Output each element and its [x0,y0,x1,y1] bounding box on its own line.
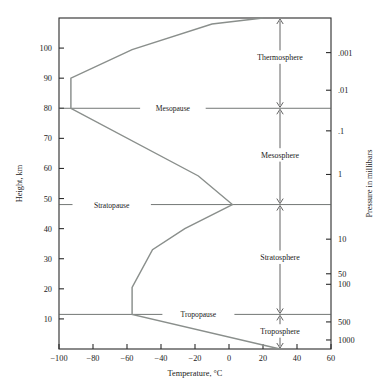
y-tick-label: 10 [44,315,52,324]
x-tick-label: −40 [155,354,168,363]
x-tick-label: −80 [87,354,100,363]
pressure-tick-label: 1000 [338,336,355,345]
y-tick-label: 40 [44,225,52,234]
pressure-tick-label: 100 [338,280,350,289]
y-axis-title: Height, km [15,164,24,202]
pressure-tick-label: .1 [338,127,344,136]
pressure-tick-label: .01 [338,86,348,95]
x-tick-label: 60 [327,354,335,363]
y-tick-label: 100 [40,44,52,53]
pressure-tick-label: 50 [338,270,346,279]
y-tick-label: 60 [44,164,52,173]
pressure-tick-label: .001 [338,49,353,58]
boundary-label: Stratopause [94,201,130,210]
layer-label: Thermosphere [257,53,303,62]
x-tick-label: 20 [259,354,267,363]
x-tick-label: −20 [189,354,202,363]
chart-canvas: −100−80−60−40−200204060Temperature, °C10… [0,0,381,390]
temperature-profile-line [71,18,280,349]
atmosphere-temperature-profile-chart: −100−80−60−40−200204060Temperature, °C10… [0,0,381,390]
layer-label: Mesosphere [261,151,300,160]
layer-label: Troposphere [260,327,300,336]
y-tick-label: 50 [44,195,52,204]
x-tick-label: −100 [50,354,67,363]
pressure-tick-label: 10 [338,235,346,244]
plot-frame [59,18,331,349]
boundary-label: Tropopause [181,310,217,319]
y-tick-label: 70 [44,134,52,143]
x-tick-label: −60 [121,354,134,363]
x-tick-label: 40 [293,354,301,363]
boundary-label: Mesopause [156,104,191,113]
pressure-axis-title: Pressure in millibars [365,149,374,217]
layer-label: Stratosphere [260,253,300,262]
y-tick-label: 30 [44,255,52,264]
y-tick-label: 80 [44,104,52,113]
y-tick-label: 90 [44,74,52,83]
pressure-tick-label: 500 [338,318,350,327]
y-tick-label: 20 [44,285,52,294]
x-tick-label: 0 [227,354,231,363]
pressure-tick-label: 1 [338,170,342,179]
x-axis-title: Temperature, °C [168,369,223,378]
